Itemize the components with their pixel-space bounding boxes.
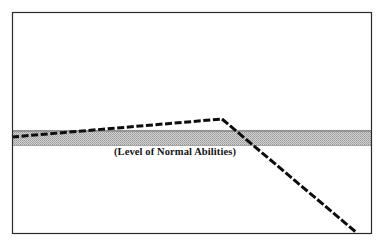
normal-abilities-label: (Level of Normal Abilities) <box>0 145 367 158</box>
figure-container: (Level of Normal Abilities) <box>0 0 383 246</box>
ability-decline-chart <box>0 0 383 246</box>
